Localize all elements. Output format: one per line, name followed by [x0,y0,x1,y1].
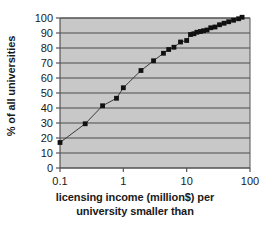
data-point-marker [151,58,156,63]
y-axis-title: % of all universities [5,36,17,137]
data-point-marker [226,19,231,24]
data-point-marker [121,85,126,90]
chart-figure: % of all universities 010203040506070809… [0,0,270,234]
data-point-marker [208,25,213,30]
data-point-marker [161,51,166,56]
data-point-marker [166,47,171,52]
y-tick-labels-layer: 0102030405060708090100 [35,12,53,174]
x-axis-title-line2: university smaller than [0,204,270,218]
data-point-marker [83,121,88,126]
chart-plot: 0102030405060708090100 0.1110100 [0,0,270,190]
y-tick-label: 30 [41,117,53,129]
data-point-marker [114,96,119,101]
y-tick-label: 0 [47,162,53,174]
x-axis-title-line1: licensing income (million$) per [0,190,270,204]
y-tick-label: 60 [41,72,53,84]
data-point-marker [213,25,218,30]
y-tick-label: 70 [41,57,53,69]
data-point-marker [231,18,236,23]
data-point-marker [178,40,183,45]
y-tick-label: 100 [35,12,53,24]
data-point-marker [139,68,144,73]
x-tick-labels-layer: 0.1110100 [52,175,259,187]
y-tick-label: 80 [41,42,53,54]
data-point-marker [184,38,189,43]
data-point-marker [222,21,227,26]
y-tick-label: 20 [41,132,53,144]
data-point-marker [240,15,245,20]
data-point-marker [217,22,222,27]
y-axis-title-container: % of all universities [0,0,22,172]
x-tick-label: 100 [241,175,259,187]
y-tick-label: 50 [41,87,53,99]
x-tick-label: 0.1 [52,175,67,187]
x-tick-label: 1 [120,175,126,187]
x-tick-label: 10 [181,175,193,187]
data-point-marker [58,140,63,145]
data-point-marker [172,45,177,50]
y-tick-label: 40 [41,102,53,114]
data-point-marker [100,103,105,108]
y-tick-label: 90 [41,27,53,39]
y-tick-label: 10 [41,147,53,159]
x-axis-title: licensing income (million$) per universi… [0,190,270,218]
